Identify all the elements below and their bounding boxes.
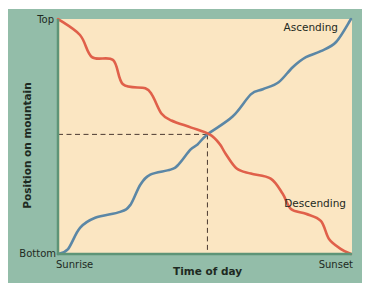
x-tick-label-end: Sunset [319, 259, 353, 270]
y-tick-label-top: Top [36, 14, 54, 25]
y-axis-title: Position on mountain [21, 82, 33, 208]
series-label-descending: Descending [284, 197, 346, 209]
y-tick-label-bottom: Bottom [19, 248, 56, 259]
x-axis-title: Time of day [173, 265, 242, 277]
chart: Top Bottom Sunrise Sunset Time of day Po… [0, 0, 369, 290]
series-label-ascending: Ascending [284, 21, 338, 33]
x-tick-label-start: Sunrise [56, 259, 93, 270]
